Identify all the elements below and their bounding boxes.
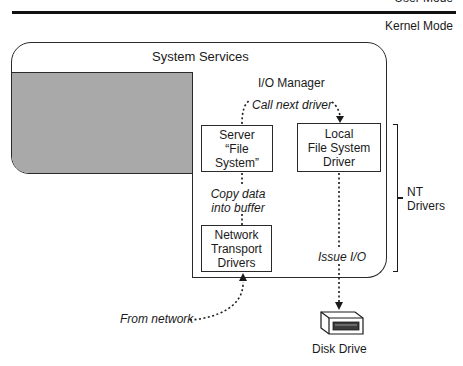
- from-network-arrow: [190, 282, 243, 320]
- disk-drive-icon: [321, 312, 363, 334]
- connector-arrows: [0, 0, 463, 366]
- call-next-driver-arrow: [242, 100, 250, 124]
